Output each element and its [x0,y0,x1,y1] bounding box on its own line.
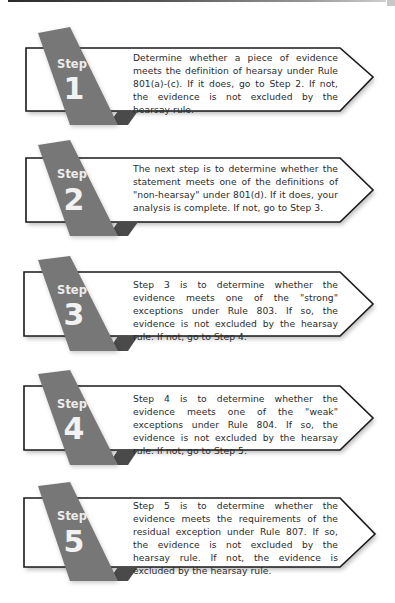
step-number: 3 [44,300,104,330]
step-label: Step [42,57,102,71]
step-description: Determine whether a piece of evidence me… [133,51,338,116]
step-number: 4 [44,414,104,444]
step-2: Step 2 The next step is to determine whe… [0,140,395,240]
step-number: 2 [44,185,104,215]
step-label: Step [42,397,102,411]
step-description: Step 5 is to determine whether the evide… [133,499,338,577]
step-label: Step [42,283,102,297]
step-4: Step 4 Step 4 is to determine whether th… [0,370,395,470]
corner-mark [387,0,395,6]
step-label: Step [42,509,102,523]
step-number: 1 [44,74,104,104]
step-description: Step 3 is to determine whether the evide… [133,278,338,343]
step-number: 5 [44,527,104,557]
step-label: Step [42,167,102,181]
step-3: Step 3 Step 3 is to determine whether th… [0,256,395,356]
step-description: Step 4 is to determine whether the evide… [133,392,338,457]
step-5: Step 5 Step 5 is to determine whether th… [0,482,395,587]
step-description: The next step is to determine whether th… [133,162,338,214]
step-1: Step 1 Determine whether a piece of evid… [0,27,395,127]
top-rule [8,0,386,2]
